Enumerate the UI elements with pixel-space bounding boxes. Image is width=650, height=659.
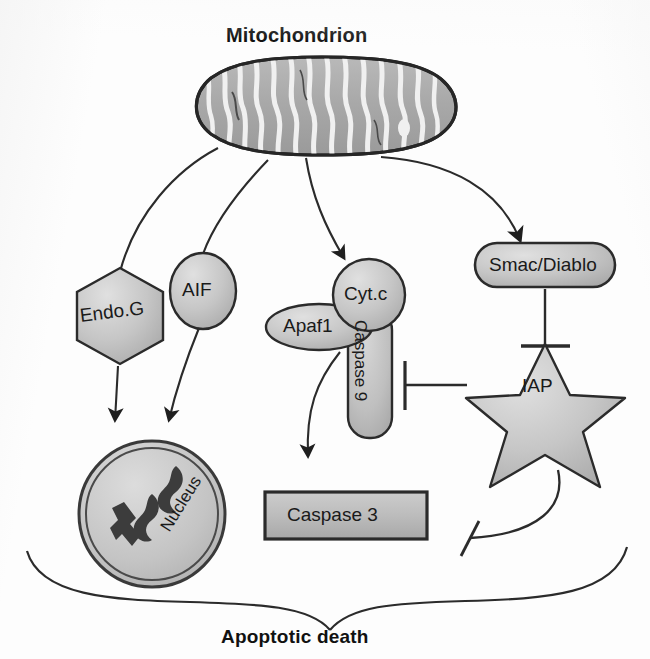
iap-node [466, 344, 625, 487]
mitochondrion-node [196, 55, 456, 159]
cytc-node [333, 259, 405, 331]
endog-node [77, 268, 163, 364]
edge-mito-to-cytc [306, 158, 344, 258]
aif-node [170, 253, 236, 329]
edge-mito-to-aif [203, 160, 268, 254]
figure-canvas: Mitochondrion Endo.G AIF Cyt.c Apaf1 Cas… [0, 0, 650, 659]
edge-endog-to-nucleus [115, 366, 118, 420]
edge-mito-to-smac [381, 157, 520, 240]
pathway-diagram [0, 0, 650, 659]
edge-smac-inhibits-iap [521, 289, 570, 346]
edge-caspase9-to-caspase3 [308, 352, 340, 456]
caspase3-node [265, 492, 427, 539]
edge-iap-inhibits-caspase3 [461, 470, 559, 556]
nucleus-node [79, 441, 225, 587]
edge-iap-inhibits-caspase9 [405, 361, 467, 410]
edge-aif-to-nucleus [169, 328, 199, 420]
smac-node [475, 243, 615, 287]
